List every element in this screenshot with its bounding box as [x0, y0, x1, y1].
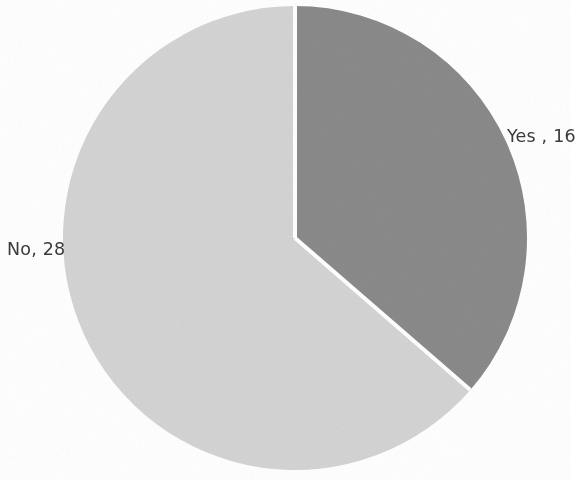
pie-label-no: No, 28 — [7, 241, 65, 259]
pie-slices-group — [63, 6, 527, 470]
pie-label-yes: Yes , 16 — [507, 128, 576, 146]
